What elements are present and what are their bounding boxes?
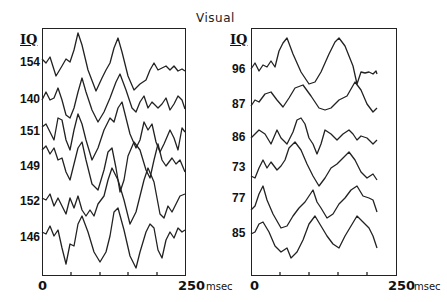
left-axis-ticks xyxy=(71,272,157,276)
trace-87 xyxy=(251,82,377,112)
trace-149 xyxy=(42,142,185,192)
trace-73 xyxy=(251,142,377,186)
trace-151 xyxy=(42,102,185,160)
trace-85 xyxy=(251,216,377,258)
waveform-traces xyxy=(0,0,447,302)
right-axis-ticks xyxy=(280,272,367,276)
trace-96 xyxy=(251,38,377,84)
trace-86 xyxy=(251,118,377,154)
trace-154 xyxy=(42,33,185,91)
trace-140 xyxy=(42,74,185,122)
trace-77 xyxy=(251,186,377,228)
